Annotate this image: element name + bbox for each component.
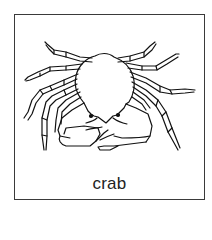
- carapace: [75, 54, 134, 124]
- eye-right: [117, 114, 120, 117]
- eye-left: [90, 115, 93, 118]
- card-caption: crab: [14, 174, 205, 194]
